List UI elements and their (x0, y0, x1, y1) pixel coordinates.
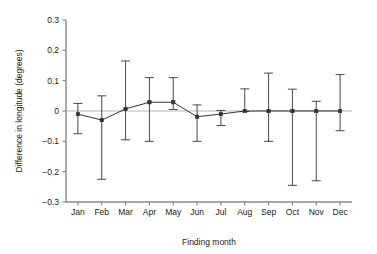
x-tick-label: Jun (190, 207, 204, 217)
data-point-marker (172, 101, 175, 104)
data-point-marker (148, 101, 151, 104)
y-tick-label: −0.3 (42, 197, 59, 207)
data-point-marker (243, 109, 246, 112)
data-point-marker (76, 112, 79, 115)
data-point-marker (315, 109, 318, 112)
x-tick-label: Jan (71, 207, 85, 217)
x-tick-label: Nov (309, 207, 325, 217)
y-tick-label: −0.2 (42, 167, 59, 177)
x-tick-label: Dec (333, 207, 349, 217)
x-tick-label: May (165, 207, 182, 217)
data-point-marker (124, 107, 127, 110)
data-point-marker (219, 112, 222, 115)
longitude-difference-error-bar-chart: 0.30.20.10−0.1−0.2−0.3 JanFebMarAprMayJu… (0, 0, 377, 254)
x-tick-label: Apr (143, 207, 156, 217)
x-tick-label: Feb (94, 207, 109, 217)
y-tick-label: −0.1 (42, 136, 59, 146)
y-tick-label: 0.3 (47, 15, 59, 25)
data-point-marker (195, 115, 198, 118)
x-tick-label: Aug (237, 207, 252, 217)
y-axis-title: Difference in longitude (degrees) (14, 49, 24, 172)
x-tick-label: Sep (261, 207, 276, 217)
data-point-marker (100, 118, 103, 121)
chart-figure: 0.30.20.10−0.1−0.2−0.3 JanFebMarAprMayJu… (0, 0, 377, 254)
x-tick-label: Jul (215, 207, 226, 217)
y-tick-label: 0.2 (47, 45, 59, 55)
x-tick-label: Mar (118, 207, 133, 217)
x-tick-label: Oct (286, 207, 300, 217)
y-tick-label: 0 (54, 106, 59, 116)
x-axis-title: Finding month (182, 237, 236, 247)
y-tick-label: 0.1 (47, 76, 59, 86)
data-point-marker (291, 109, 294, 112)
data-point-marker (267, 109, 270, 112)
data-point-marker (338, 109, 341, 112)
